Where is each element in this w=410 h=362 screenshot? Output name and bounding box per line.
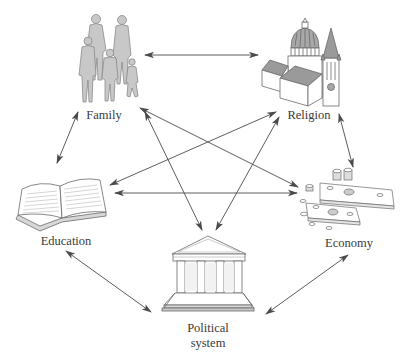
education-label: Education [34,234,98,249]
arrow-religion-education [110,112,276,185]
government-building-icon [162,236,254,311]
open-book-icon [16,179,106,231]
arrow-religion-economy [339,114,353,167]
arrow-economy-political [266,255,348,314]
institutions-diagram [0,0,410,362]
arrow-family-political [145,112,202,230]
arrow-family-education [57,112,78,163]
political-system-label: Political system [180,321,236,351]
economy-label: Economy [318,236,380,251]
church-icon [262,18,341,106]
money-icon [300,168,394,229]
family-icon [79,15,138,103]
family-label: Family [82,108,126,123]
religion-label: Religion [283,108,335,123]
arrow-family-economy [140,108,298,187]
arrow-education-political [66,251,151,312]
